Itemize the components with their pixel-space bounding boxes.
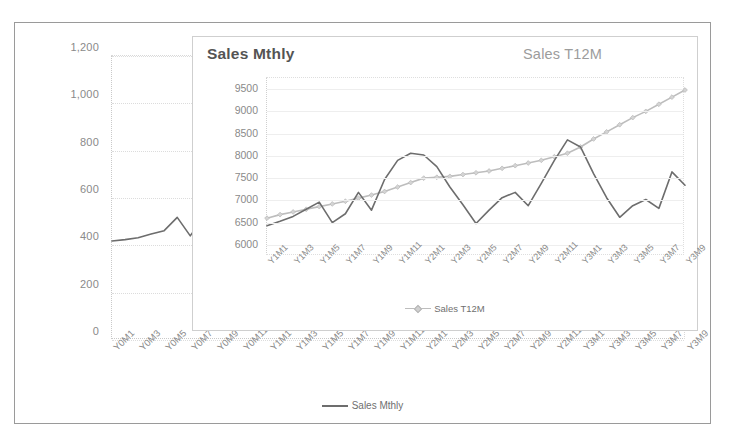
y-tick-label: 7500: [235, 171, 258, 183]
inner-y-axis-labels: 60006500700075008000850090009500: [193, 77, 263, 255]
y-tick-label: 400: [80, 230, 99, 242]
y-tick-label: 1,000: [70, 88, 99, 100]
gridline: [267, 178, 683, 179]
gridline: [267, 111, 683, 112]
legend-line-swatch-sales-mthly: [322, 405, 348, 407]
y-tick-label: 200: [80, 278, 99, 290]
x-tick-label: Y3M9: [685, 327, 710, 352]
data-point-marker: [539, 158, 544, 163]
inner-title-sales-t12m: Sales T12M: [523, 46, 602, 62]
data-point-marker: [265, 216, 270, 221]
legend-label-sales-t12m: Sales T12M: [434, 303, 485, 314]
outer-y-axis-labels: 02004006008001,0001,200: [15, 47, 107, 347]
inner-series-sales-t12m: [267, 90, 685, 218]
inner-series-sales-mthly: [267, 140, 685, 226]
gridline: [267, 134, 683, 135]
data-point-marker: [382, 189, 387, 194]
inner-plot-area: [266, 77, 684, 255]
data-point-marker: [278, 212, 283, 217]
y-tick-label: 7000: [235, 193, 258, 205]
gridline: [267, 223, 683, 224]
data-point-marker: [487, 169, 492, 174]
gridline: [267, 89, 683, 90]
inner-title-sales-mthly: Sales Mthly: [207, 45, 294, 63]
gridline: [267, 156, 683, 157]
data-point-marker: [408, 180, 413, 185]
data-point-marker: [526, 161, 531, 166]
outer-legend[interactable]: Sales Mthly: [15, 400, 710, 411]
data-point-marker: [395, 185, 400, 190]
data-point-marker: [369, 193, 374, 198]
legend-label-sales-mthly: Sales Mthly: [352, 400, 404, 411]
y-tick-label: 800: [80, 136, 99, 148]
y-tick-label: 1,200: [70, 41, 99, 53]
y-tick-label: 9500: [235, 82, 258, 94]
data-point-marker: [291, 210, 296, 215]
y-tick-label: 8000: [235, 149, 258, 161]
data-point-marker: [330, 202, 335, 207]
inner-x-axis-labels: Y1M1Y1M3Y1M5Y1M7Y1M9Y1M11Y2M1Y2M3Y2M5Y2M…: [266, 257, 684, 305]
gridline: [267, 200, 683, 201]
data-point-marker: [474, 170, 479, 175]
y-tick-label: 600: [80, 183, 99, 195]
legend-line-swatch-sales-t12m: [405, 308, 431, 309]
outer-x-axis-labels: Y0M1Y0M3Y0M5Y0M7Y0M9Y0M11Y1M1Y1M3Y1M5Y1M…: [111, 341, 685, 403]
inner-chart-titles: Sales Mthly Sales T12M: [193, 37, 697, 75]
y-tick-label: 6000: [235, 238, 258, 250]
data-point-marker: [461, 172, 466, 177]
y-tick-label: 9000: [235, 104, 258, 116]
inner-chart-area[interactable]: Sales Mthly Sales T12M 60006500700075008…: [192, 36, 698, 331]
inner-series-group: [267, 78, 685, 256]
y-tick-label: 6500: [235, 216, 258, 228]
y-tick-label: 0: [93, 325, 99, 337]
y-tick-label: 8500: [235, 127, 258, 139]
data-point-marker: [500, 166, 505, 171]
inner-legend[interactable]: Sales T12M: [193, 303, 697, 314]
data-point-marker: [513, 163, 518, 168]
